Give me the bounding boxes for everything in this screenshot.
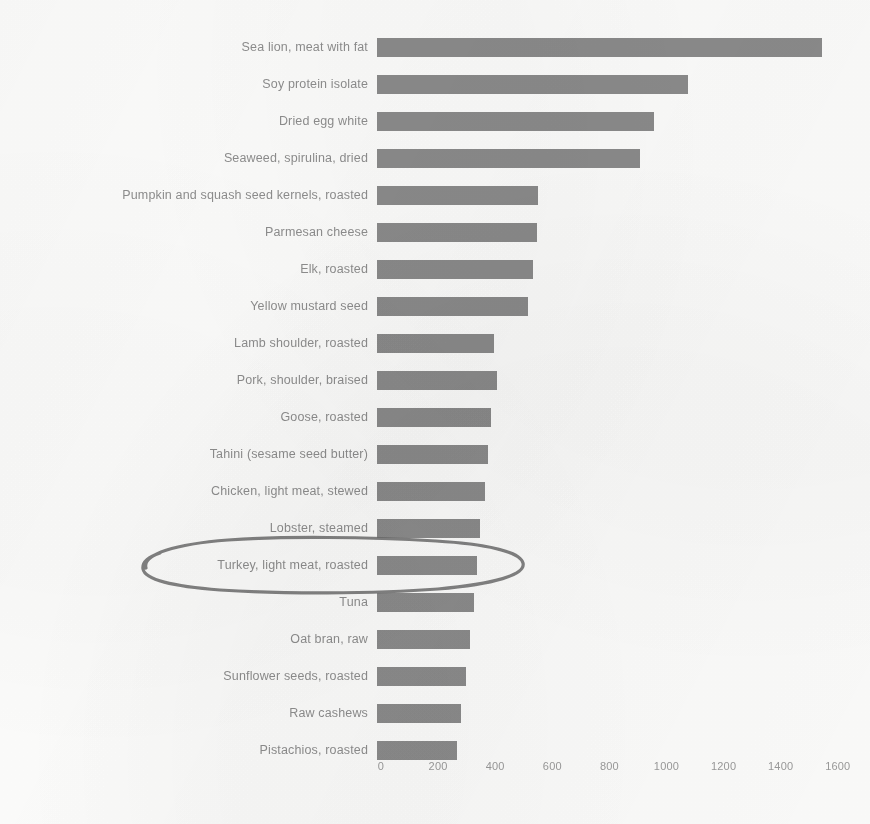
bar [377,260,533,279]
bar-category-label: Lobster, steamed [0,519,368,538]
bar-row: Sea lion, meat with fat [0,38,870,57]
x-tick-label: 600 [543,760,562,772]
bar-row: Tahini (sesame seed butter) [0,445,870,464]
bar-category-label: Chicken, light meat, stewed [0,482,368,501]
x-tick-label: 1600 [825,760,850,772]
chart-page: Sea lion, meat with fatSoy protein isola… [0,0,870,824]
bar [377,149,640,168]
bar-category-label: Turkey, light meat, roasted [0,556,368,575]
bar-category-label: Raw cashews [0,704,368,723]
bar [377,75,688,94]
bar-row: Pork, shoulder, braised [0,371,870,390]
bar-row: Lamb shoulder, roasted [0,334,870,353]
bar-row: Parmesan cheese [0,223,870,242]
bar-row: Dried egg white [0,112,870,131]
bar [377,556,477,575]
bar [377,371,497,390]
bar [377,38,822,57]
bar-row: Soy protein isolate [0,75,870,94]
bar-category-label: Oat bran, raw [0,630,368,649]
bar-row: Yellow mustard seed [0,297,870,316]
bar [377,630,470,649]
x-tick-label: 1200 [711,760,736,772]
x-tick-label: 800 [600,760,619,772]
bar [377,186,538,205]
x-tick-label: 1000 [654,760,679,772]
bar-row: Turkey, light meat, roasted [0,556,870,575]
bar [377,704,461,723]
bar [377,334,494,353]
bar-category-label: Sunflower seeds, roasted [0,667,368,686]
x-tick-label: 0 [378,760,384,772]
bar-row: Chicken, light meat, stewed [0,482,870,501]
bar-category-label: Lamb shoulder, roasted [0,334,368,353]
x-tick-label: 200 [429,760,448,772]
bar-category-label: Pumpkin and squash seed kernels, roasted [0,186,368,205]
bar-category-label: Tahini (sesame seed butter) [0,445,368,464]
bar [377,112,654,131]
bar-row: Lobster, steamed [0,519,870,538]
bar-category-label: Seaweed, spirulina, dried [0,149,368,168]
bar [377,593,474,612]
bar [377,223,537,242]
bar [377,667,466,686]
bar-row: Oat bran, raw [0,630,870,649]
bar-category-label: Sea lion, meat with fat [0,38,368,57]
bar-row: Pumpkin and squash seed kernels, roasted [0,186,870,205]
horizontal-bar-chart: Sea lion, meat with fatSoy protein isola… [0,0,870,824]
bar-row: Goose, roasted [0,408,870,427]
x-tick-label: 1400 [768,760,793,772]
bar-category-label: Tuna [0,593,368,612]
bar-row: Elk, roasted [0,260,870,279]
bar [377,445,488,464]
bar-category-label: Goose, roasted [0,408,368,427]
bar-category-label: Yellow mustard seed [0,297,368,316]
bar-category-label: Dried egg white [0,112,368,131]
bar-row: Sunflower seeds, roasted [0,667,870,686]
bar-category-label: Parmesan cheese [0,223,368,242]
bar [377,482,485,501]
bar-row: Raw cashews [0,704,870,723]
bar-category-label: Pistachios, roasted [0,741,368,760]
bar-category-label: Elk, roasted [0,260,368,279]
bar [377,297,528,316]
bar-category-label: Pork, shoulder, braised [0,371,368,390]
bar [377,408,491,427]
x-tick-label: 400 [486,760,505,772]
x-axis-tick-labels: 02004006008001000120014001600 [0,760,870,780]
bar-row: Seaweed, spirulina, dried [0,149,870,168]
bar [377,519,480,538]
bar [377,741,457,760]
bar-row: Pistachios, roasted [0,741,870,760]
bar-category-label: Soy protein isolate [0,75,368,94]
bar-row: Tuna [0,593,870,612]
